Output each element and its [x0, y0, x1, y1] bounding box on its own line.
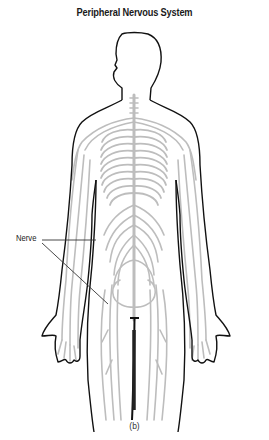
body-outline	[42, 33, 230, 433]
body-figure	[0, 0, 269, 440]
nerve-label: Nerve	[16, 233, 36, 243]
figure-caption: (b)	[0, 421, 269, 431]
